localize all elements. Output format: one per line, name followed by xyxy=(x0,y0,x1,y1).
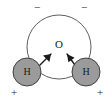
partial-negative-charge-left: − xyxy=(34,1,40,13)
partial-negative-charge-right: − xyxy=(81,1,87,13)
partial-positive-charge-right: + xyxy=(97,86,103,98)
partial-positive-charge-left: + xyxy=(11,86,17,98)
hydrogen-right-atom-label: H xyxy=(82,66,89,77)
oxygen-atom-label: O xyxy=(55,38,63,50)
hydrogen-left-atom-label: H xyxy=(23,66,30,77)
molecule-canvas: O H H − − + + xyxy=(0,0,112,108)
water-molecule-diagram: O H H − − + + xyxy=(0,0,112,108)
